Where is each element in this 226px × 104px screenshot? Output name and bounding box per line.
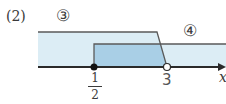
fraction-bar xyxy=(88,86,102,87)
tick-label-three: 3 xyxy=(162,73,172,88)
fraction-denominator: 2 xyxy=(88,89,102,101)
open-point-three xyxy=(164,64,171,71)
fraction-numerator: 1 xyxy=(88,72,102,84)
number-line-graphic xyxy=(0,0,226,104)
overlap-region-fill xyxy=(94,44,167,67)
region-4-label: ④ xyxy=(183,23,197,39)
closed-point-half xyxy=(91,64,98,71)
problem-number: (2) xyxy=(6,9,26,23)
region-3-label: ③ xyxy=(56,8,70,24)
tick-label-one-half: 1 2 xyxy=(88,72,102,101)
number-line-diagram: (2) ③ ④ 1 2 3 x xyxy=(0,0,226,104)
axis-variable-label: x xyxy=(219,70,226,84)
